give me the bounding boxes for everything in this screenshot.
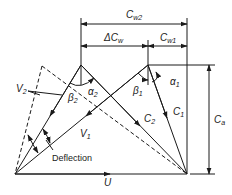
v2-arrow (50, 65, 81, 116)
ca-label: Ca (214, 115, 225, 126)
alpha2-label: α2 (88, 87, 98, 98)
alpha1-label: α1 (170, 77, 180, 88)
deflection-label: Deflection (52, 154, 92, 163)
velocity-triangle-diagram (0, 0, 232, 195)
beta2-label: β2 (68, 93, 78, 104)
c1-arrow (148, 65, 167, 118)
c2-label: C2 (144, 114, 155, 125)
u-label: U (104, 178, 111, 188)
beta1-arc (138, 73, 148, 80)
delta-cw-label: ΔCw (104, 33, 123, 44)
cw1-label: Cw1 (160, 33, 176, 44)
alpha2-arc (70, 78, 94, 86)
c1-label: C1 (173, 107, 184, 118)
beta1-label: β1 (133, 86, 143, 97)
v1-label: V1 (80, 129, 91, 140)
cw2-label: Cw2 (126, 10, 142, 21)
v2-label: V2 (16, 84, 27, 95)
